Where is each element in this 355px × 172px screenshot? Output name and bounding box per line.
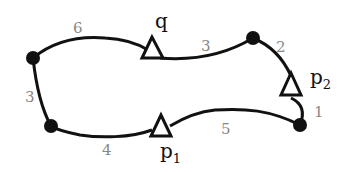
graph-diagram: q p2 p1 6 3 2 1 5 4 3 [0, 0, 355, 172]
label-p1: p1 [160, 139, 181, 166]
label-q: q [155, 9, 168, 33]
weight-p1-to-left-bottom: 4 [102, 141, 112, 159]
node-left-bottom [44, 119, 58, 133]
node-top-right [246, 31, 260, 45]
marker-p2-triangle-icon [281, 73, 301, 95]
weight-left-bottom-to-left-top: 3 [25, 88, 35, 106]
weight-p2-to-right-bottom: 1 [314, 103, 324, 121]
node-left-top [26, 51, 40, 65]
weight-left-top-to-q: 6 [73, 19, 83, 37]
edge-right-bottom-to-p1 [170, 109, 300, 126]
label-p2: p2 [310, 65, 331, 92]
edge-left-top-to-q [33, 38, 148, 58]
weight-q-to-top-right: 3 [201, 37, 211, 55]
edge-p1-to-left-bottom [51, 126, 152, 137]
marker-p1-triangle-icon [151, 115, 171, 136]
edge-left-bottom-to-left-top [33, 58, 51, 126]
node-right-bottom [293, 118, 307, 132]
weight-right-bottom-to-p1: 5 [221, 120, 231, 138]
weight-top-right-to-p2: 2 [276, 38, 286, 56]
